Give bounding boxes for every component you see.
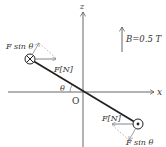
lower-force-label: F[N] (101, 114, 122, 123)
angle-arc (70, 85, 72, 92)
x-axis-label: x (157, 87, 162, 97)
conducting-rod (30, 59, 138, 124)
magnetic-field-label: B=0.5 T (125, 34, 163, 44)
origin-label: O (72, 96, 79, 106)
lower-component-label: F sin θ (125, 138, 153, 147)
z-axis-label: z (79, 2, 85, 11)
current-into-page-icon (25, 54, 35, 64)
upper-force-label: F[N] (53, 65, 74, 74)
rod-in-magnetic-field-diagram: x z O B=0.5 T θ F[N] F sin θ F[N] F sin … (0, 0, 166, 147)
angle-label: θ (60, 84, 65, 93)
upper-component-dashed (39, 43, 56, 58)
current-out-of-page-icon (133, 119, 143, 129)
upper-component-label: F sin θ (5, 42, 33, 51)
